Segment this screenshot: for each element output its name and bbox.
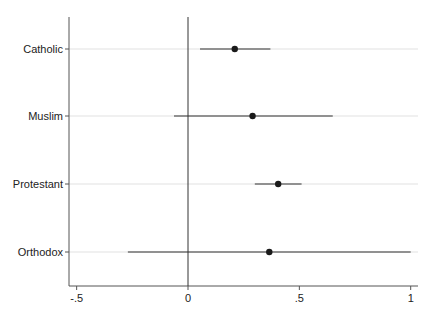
estimates-series — [128, 46, 411, 255]
x-tick-label: 0 — [185, 292, 191, 304]
y-tick-label: Orthodox — [18, 246, 64, 258]
point-estimate — [249, 113, 255, 119]
x-axis-ticks: -.50.51 — [70, 286, 414, 304]
estimate-row — [128, 249, 411, 255]
coefficient-plot: CatholicMuslimProtestantOrthodox -.50.51 — [0, 0, 432, 320]
estimate-row — [255, 181, 302, 187]
point-estimate — [275, 181, 281, 187]
x-tick-label: 1 — [408, 292, 414, 304]
x-tick-label: -.5 — [70, 292, 83, 304]
gridlines — [69, 49, 418, 252]
y-tick-label: Protestant — [13, 178, 63, 190]
point-estimate — [266, 249, 272, 255]
x-tick-label: .5 — [295, 292, 304, 304]
estimate-row — [200, 46, 270, 52]
point-estimate — [232, 46, 238, 52]
estimate-row — [174, 113, 333, 119]
y-tick-label: Muslim — [28, 110, 63, 122]
y-tick-label: Catholic — [23, 43, 63, 55]
y-axis-labels: CatholicMuslimProtestantOrthodox — [13, 43, 69, 258]
